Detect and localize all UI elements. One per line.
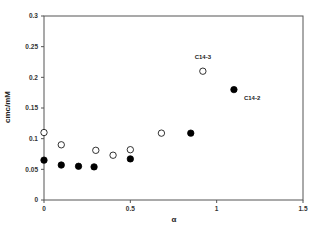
- y-tick-label: 0.15: [25, 104, 38, 111]
- open-circle-point: [127, 147, 133, 153]
- filled-circle-point: [188, 130, 194, 136]
- filled-circle-point: [91, 164, 97, 170]
- y-tick-label: 0.1: [29, 135, 38, 142]
- filled-circle-point: [75, 163, 81, 169]
- chart: 00.050.10.150.20.250.3 00.511.5 C14-3C14…: [0, 0, 320, 232]
- y-axis-title: cmc/mM: [3, 91, 12, 123]
- open-circle-point: [93, 147, 99, 153]
- filled-circle-point: [127, 156, 133, 162]
- open-circle-point: [110, 152, 116, 158]
- open-circle-point: [41, 129, 47, 135]
- x-tick-label: 0.5: [126, 205, 135, 212]
- x-tick-label: 1: [215, 205, 219, 212]
- filled-circle-point: [58, 162, 64, 168]
- plot-area-border: [44, 16, 303, 200]
- x-tick-label: 0: [42, 205, 46, 212]
- open-circle-point: [58, 142, 64, 148]
- x-axis-ticks: 00.511.5: [42, 200, 308, 212]
- y-tick-label: 0: [34, 196, 38, 203]
- y-tick-label: 0.2: [29, 74, 38, 81]
- open-circle-point: [200, 68, 206, 74]
- filled-circle-point: [231, 86, 237, 92]
- y-tick-label: 0.3: [29, 12, 38, 19]
- annotations: C14-3C14-2: [195, 54, 261, 100]
- open-circle-point: [158, 130, 164, 136]
- filled-circle-point: [41, 157, 47, 163]
- y-tick-label: 0.05: [25, 166, 38, 173]
- annotation-label: C14-3: [195, 54, 212, 60]
- x-axis-title: α: [172, 215, 177, 224]
- plot-frame: [44, 16, 303, 200]
- x-tick-label: 1.5: [298, 205, 307, 212]
- y-axis-ticks: 00.050.10.150.20.250.3: [25, 12, 44, 203]
- annotation-label: C14-2: [244, 95, 261, 101]
- y-tick-label: 0.25: [25, 43, 38, 50]
- data-points: [41, 68, 237, 170]
